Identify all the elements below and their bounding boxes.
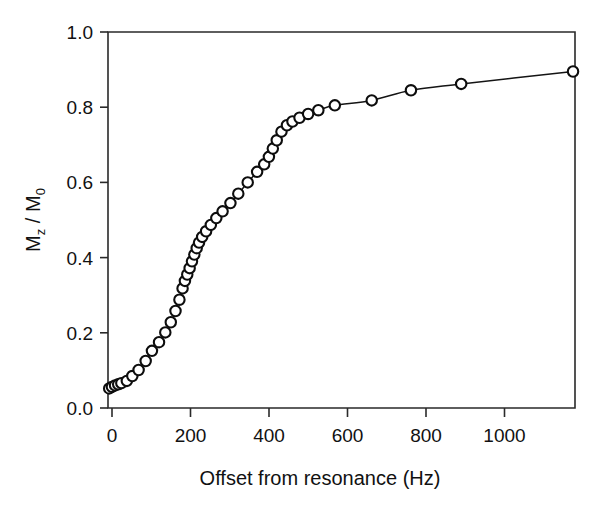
x-axis-tick-labels: 0 200 400 600 800 1000 [107,425,526,446]
x-tick-label-5: 1000 [483,425,525,446]
x-tick-label-1: 200 [175,425,207,446]
y-axis-title-m: M [22,235,44,252]
x-tick-label-2: 400 [253,425,285,446]
y-tick-label-0: 0.0 [67,398,93,419]
x-tick-label-0: 0 [107,425,118,446]
x-axis-ticks [112,408,505,417]
data-curve-line [109,71,573,388]
data-point-marker [456,79,466,89]
axes-frame-rect [108,32,575,408]
data-point-marker [367,95,377,105]
data-point-marker [243,177,253,187]
data-point-marker [217,206,227,216]
data-series-group [104,66,578,393]
x-tick-label-3: 600 [332,425,364,446]
y-axis-tick-labels: 0.0 0.2 0.4 0.6 0.8 1.0 [67,22,94,419]
y-axis-title-slash: / M [22,195,44,228]
y-tick-label-4: 0.8 [67,97,93,118]
data-point-marker [225,198,235,208]
data-point-marker [154,337,164,347]
y-axis-title-sub-zero: 0 [33,188,48,195]
data-point-marker [568,66,578,76]
data-point-marker [140,356,150,366]
plot-frame [108,32,575,408]
data-point-marker [233,188,243,198]
x-tick-label-4: 800 [410,425,442,446]
figure-root: 0.0 0.2 0.4 0.6 0.8 1.0 0 200 400 600 80… [0,0,604,508]
data-point-marker [330,100,340,110]
data-point-marker [174,295,184,305]
svg-text:Mz / M0: Mz / M0 [22,188,48,252]
y-axis-title: Mz / M0 [22,188,48,252]
data-point-marker [166,317,176,327]
y-tick-label-2: 0.4 [67,248,94,269]
data-point-marker [170,306,180,316]
y-tick-label-5: 1.0 [67,22,93,43]
x-axis-title: Offset from resonance (Hz) [200,467,441,489]
data-marker-group [104,66,578,393]
data-point-marker [133,365,143,375]
y-tick-label-1: 0.2 [67,323,93,344]
y-tick-label-3: 0.6 [67,172,93,193]
data-point-marker [160,327,170,337]
data-point-marker [406,85,416,95]
data-point-marker [313,105,323,115]
data-point-marker [303,109,313,119]
y-axis-ticks [100,32,108,408]
plot-canvas: 0.0 0.2 0.4 0.6 0.8 1.0 0 200 400 600 80… [0,0,604,508]
